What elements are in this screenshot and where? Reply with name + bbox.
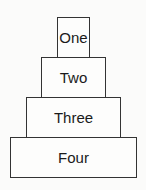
level-four-label: Four	[58, 149, 89, 166]
level-two-label: Two	[60, 69, 88, 86]
level-one-box: One	[57, 17, 90, 58]
level-four-box: Four	[10, 137, 137, 178]
level-three-box: Three	[26, 97, 121, 138]
level-three-label: Three	[54, 109, 93, 126]
level-two-box: Two	[41, 57, 106, 98]
level-one-label: One	[59, 29, 87, 46]
